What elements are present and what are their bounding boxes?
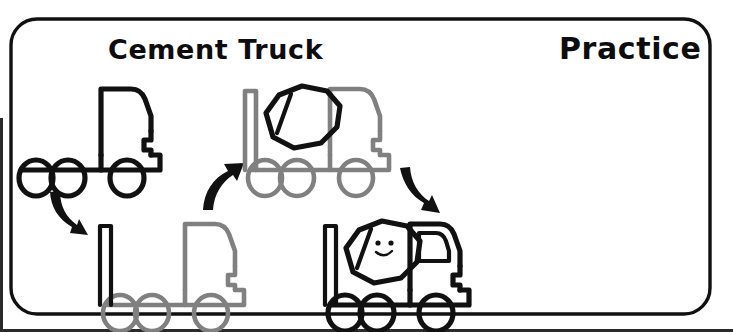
scan-edge-artifact-left (0, 118, 3, 332)
face-eye-left-icon (375, 240, 380, 245)
page-title: Cement Truck (108, 34, 324, 65)
worksheet-page: Cement Truck Practice (0, 0, 733, 332)
face-eye-right-icon (388, 240, 393, 245)
practice-mode-label: Practice (559, 31, 701, 66)
